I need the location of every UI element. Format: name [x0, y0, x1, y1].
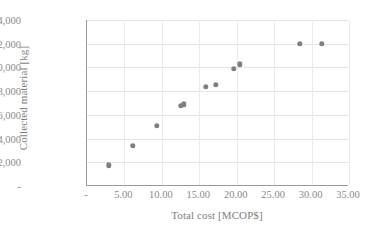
gridline-horizontal [87, 162, 348, 163]
y-tick-label: 2,000 [0, 157, 21, 168]
data-point [213, 82, 218, 87]
gridline-vertical [312, 20, 313, 185]
scatter-chart: Collected material [kg] Total cost [MCOP… [0, 0, 373, 236]
y-tick-label: 14,000 [0, 15, 21, 26]
gridline-vertical [237, 20, 238, 185]
gridline-horizontal [87, 44, 348, 45]
gridline-vertical [162, 20, 163, 185]
gridline-vertical [349, 20, 350, 185]
y-tick-label: 12,000 [0, 38, 21, 49]
y-tick-label: 8,000 [0, 86, 21, 97]
y-tick-label: 4,000 [0, 133, 21, 144]
data-point [231, 66, 236, 71]
x-axis-title: Total cost [MCOP$] [86, 209, 348, 221]
gridline-horizontal [87, 139, 348, 140]
gridline-horizontal [87, 67, 348, 68]
data-point [319, 41, 324, 46]
y-tick-label: 10,000 [0, 62, 21, 73]
gridline-horizontal [87, 20, 348, 21]
data-point [203, 84, 208, 89]
y-tick-label: 6,000 [0, 109, 21, 120]
gridline-vertical [274, 20, 275, 185]
data-point [154, 123, 159, 128]
data-point [181, 101, 186, 106]
gridline-horizontal [87, 91, 348, 92]
x-tick-label: 35.00 [326, 189, 370, 200]
gridline-horizontal [87, 115, 348, 116]
data-point [237, 62, 242, 67]
data-point [130, 143, 135, 148]
data-point [106, 163, 111, 168]
gridline-vertical [124, 20, 125, 185]
plot-area [86, 20, 348, 186]
y-tick-label: - [0, 181, 21, 192]
gridline-vertical [199, 20, 200, 185]
data-point [297, 41, 302, 46]
